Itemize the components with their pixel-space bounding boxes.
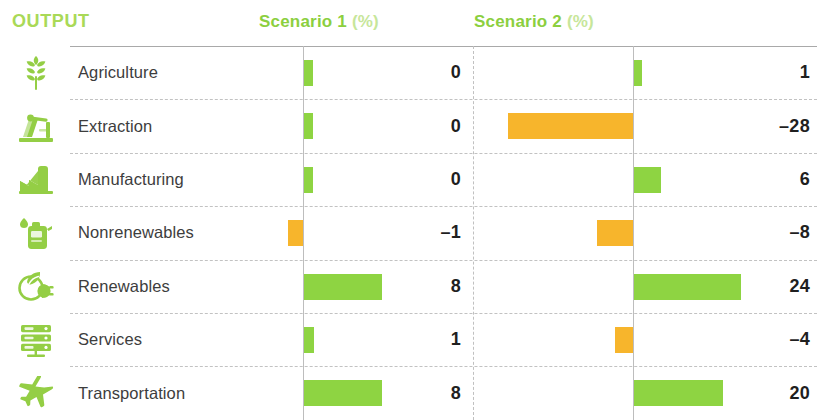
- table-row: Nonrenewables–1–8: [0, 206, 817, 259]
- table-row: Renewables824: [0, 260, 817, 313]
- scenario-2-value: –8: [700, 206, 810, 259]
- output-title: OUTPUT: [12, 11, 90, 32]
- scenario-2-bar: [634, 167, 661, 193]
- table-row: Services1–4: [0, 313, 817, 366]
- chart-header: OUTPUT Scenario 1 (%) Scenario 2 (%): [0, 0, 817, 46]
- scenario-2-title: Scenario 2: [474, 12, 562, 31]
- scenario-2-bar: [634, 60, 642, 86]
- scenario-2-value: 20: [700, 366, 810, 419]
- scenario-2-zero-line: [633, 99, 634, 152]
- scenario-2-value: 6: [700, 153, 810, 206]
- table-row: Manufacturing06: [0, 153, 817, 206]
- scenario-1-header: Scenario 1 (%): [259, 12, 379, 32]
- scenario-1-value: 8: [380, 260, 461, 313]
- scenario-1-value: 0: [380, 99, 461, 152]
- scenario-1-value: 0: [380, 46, 461, 99]
- scenario-2-zero-line: [633, 206, 634, 259]
- scenario-1-bar: [304, 60, 313, 86]
- scenario-1-bar: [304, 274, 382, 300]
- oil-pump-icon: [8, 99, 64, 152]
- row-label: Renewables: [78, 260, 170, 313]
- scenario-1-value: 0: [380, 153, 461, 206]
- scenario-2-bar: [508, 113, 633, 139]
- table-row: Extraction0–28: [0, 99, 817, 152]
- scenario-1-bar: [304, 380, 382, 406]
- scenario-2-value: –4: [700, 313, 810, 366]
- table-row: Transportation820: [0, 366, 817, 419]
- chart-table: Agriculture01 Extraction0–28 Manufacturi…: [0, 46, 817, 420]
- wheat-icon: [8, 46, 64, 99]
- scenario-1-value: 1: [380, 313, 461, 366]
- row-label: Agriculture: [78, 46, 158, 99]
- output-scenario-chart: OUTPUT Scenario 1 (%) Scenario 2 (%) Agr…: [0, 0, 817, 420]
- scenario-1-bar: [304, 113, 313, 139]
- table-row: Agriculture01: [0, 46, 817, 99]
- scenario-2-bar: [597, 220, 633, 246]
- scenario-1-bar: [304, 167, 313, 193]
- server-icon: [8, 313, 64, 366]
- scenario-2-header: Scenario 2 (%): [474, 12, 594, 32]
- row-label: Transportation: [78, 366, 185, 419]
- scenario-1-value: –1: [380, 206, 461, 259]
- scenario-2-bar: [615, 327, 633, 353]
- row-label: Manufacturing: [78, 153, 184, 206]
- row-label: Services: [78, 313, 142, 366]
- airplane-icon: [8, 366, 64, 419]
- scenario-2-zero-line: [633, 313, 634, 366]
- scenario-1-unit: (%): [352, 12, 379, 31]
- scenario-1-bar: [304, 327, 314, 353]
- scenario-1-title: Scenario 1: [259, 12, 347, 31]
- scenario-2-value: –28: [700, 99, 810, 152]
- scenario-1-bar: [288, 220, 303, 246]
- scenario-2-value: 1: [700, 46, 810, 99]
- gas-can-icon: [8, 206, 64, 259]
- scenario-1-zero-line: [303, 206, 304, 259]
- row-label: Extraction: [78, 99, 152, 152]
- scenario-1-value: 8: [380, 366, 461, 419]
- factory-icon: [8, 153, 64, 206]
- scenario-2-value: 24: [700, 260, 810, 313]
- leaf-plug-icon: [8, 260, 64, 313]
- row-label: Nonrenewables: [78, 206, 194, 259]
- scenario-2-unit: (%): [567, 12, 594, 31]
